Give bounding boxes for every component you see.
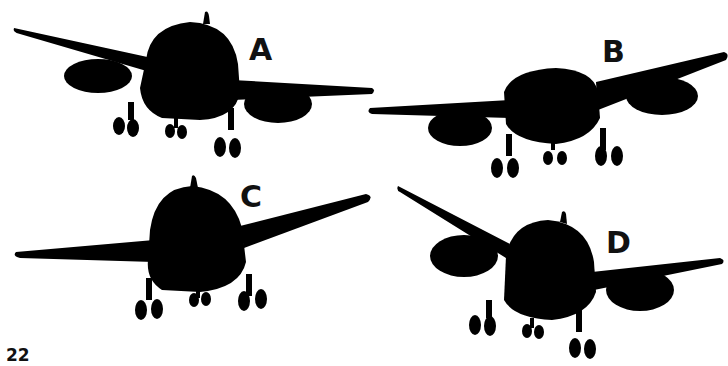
option-label-d: D	[606, 228, 631, 258]
option-label-a: A	[249, 35, 272, 65]
aircraft-silhouette-d	[397, 186, 723, 359]
aircraft-silhouette-a	[14, 12, 374, 159]
option-label-c: C	[240, 182, 262, 212]
aircraft-silhouette-c	[15, 175, 371, 320]
page-number: 22	[6, 347, 30, 364]
worksheet-page: A B C D 22	[0, 0, 728, 366]
option-label-b: B	[602, 37, 625, 67]
aircraft-silhouette-b	[368, 52, 727, 178]
